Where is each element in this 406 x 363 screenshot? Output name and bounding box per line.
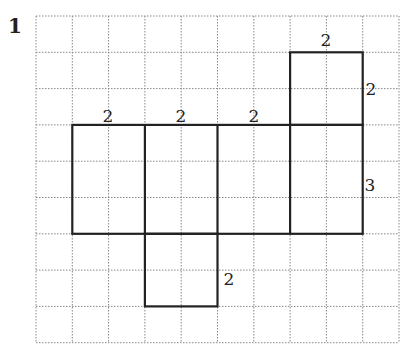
label-main-height: 3 <box>365 175 376 195</box>
label-width-1: 2 <box>103 106 114 126</box>
label-bottom-box-height: 2 <box>224 269 235 289</box>
net-diagram: 2222232 <box>0 0 406 363</box>
net-shape <box>72 52 362 306</box>
dimension-labels: 2222232 <box>103 30 377 289</box>
label-top-box-height: 2 <box>366 79 377 99</box>
label-top-box-width: 2 <box>321 30 332 50</box>
label-width-3: 2 <box>249 106 260 126</box>
label-width-2: 2 <box>176 106 187 126</box>
